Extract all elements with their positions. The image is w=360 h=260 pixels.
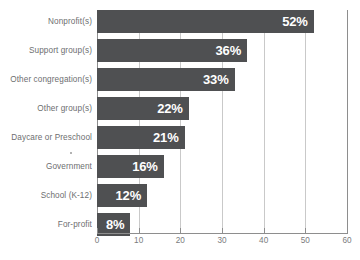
category-label: Other group(s) [0,97,92,120]
x-tick-label: 30 [202,236,242,245]
x-tick-label: 0 [77,236,117,245]
bar: 12% [97,184,147,207]
x-tick-label: 50 [285,236,325,245]
bar-row: School (K-12) 12% [0,184,360,207]
bar-value-label: 21% [153,126,178,149]
x-tick-label: 20 [160,236,200,245]
bar-value-label: 12% [116,184,141,207]
tick-mark-50 [305,228,306,234]
bar: 36% [97,39,247,62]
bar: 22% [97,97,189,120]
bar-rows: Nonprofit(s) 52% Support group(s) 36% Ot… [0,10,360,234]
bar-value-label: 52% [282,10,307,33]
bar-value-label: 22% [157,97,182,120]
bar-value-label: 36% [216,39,241,62]
bar-row: Nonprofit(s) 52% [0,10,360,33]
bar: 52% [97,10,314,33]
ink-artifact-dot [70,152,72,154]
tick-mark-10 [139,228,140,234]
category-label: Daycare or Preschool [0,126,92,149]
tick-mark-30 [222,228,223,234]
category-label: Other congregation(s) [0,68,92,91]
bar: 16% [97,155,164,178]
bar-row: Daycare or Preschool 21% [0,126,360,149]
bar-value-label: 33% [203,68,228,91]
tick-mark-40 [264,228,265,234]
bar-chart: Nonprofit(s) 52% Support group(s) 36% Ot… [0,0,360,260]
category-label: Government [0,155,92,178]
tick-mark-0 [97,228,98,234]
bar-row: Support group(s) 36% [0,39,360,62]
tick-mark-60 [347,228,348,234]
x-tick-label: 10 [119,236,159,245]
x-tick-label: 40 [244,236,284,245]
x-axis-tick-labels: 0 10 20 30 40 50 60 [0,236,360,252]
category-label: School (K-12) [0,184,92,207]
bar-value-label: 16% [132,155,157,178]
bar: 21% [97,126,185,149]
bar-row: Government 16% [0,155,360,178]
category-label: For-profit [0,213,92,236]
bar: 33% [97,68,235,91]
category-label: Support group(s) [0,39,92,62]
tick-mark-20 [180,228,181,234]
x-tick-label: 60 [327,236,360,245]
bar-row: Other congregation(s) 33% [0,68,360,91]
category-label: Nonprofit(s) [0,10,92,33]
bar-row: Other group(s) 22% [0,97,360,120]
